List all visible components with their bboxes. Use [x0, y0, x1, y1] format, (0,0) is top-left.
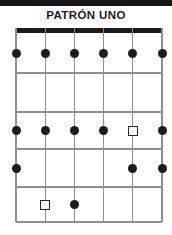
nut-bar: [16, 28, 163, 33]
note-dot: [12, 164, 21, 173]
note-dot: [158, 49, 167, 58]
fretboard-diagram: [0, 0, 172, 235]
page: PATRÓN UNO: [0, 0, 172, 235]
note-dot: [158, 164, 167, 173]
root-square: [128, 126, 138, 136]
fret-line: [16, 148, 162, 149]
fret-line: [16, 111, 162, 112]
fret-line: [16, 221, 162, 222]
note-dot: [70, 200, 79, 209]
note-dot: [158, 126, 167, 135]
note-dot: [12, 126, 21, 135]
note-dot: [99, 49, 108, 58]
note-dot: [99, 126, 108, 135]
note-dot: [70, 49, 79, 58]
note-dot: [70, 126, 79, 135]
root-square: [40, 200, 50, 210]
fret-line: [16, 72, 162, 73]
note-dot: [12, 49, 21, 58]
note-dot: [41, 126, 50, 135]
note-dot: [41, 49, 50, 58]
note-dot: [128, 49, 137, 58]
note-dot: [128, 164, 137, 173]
fret-line: [16, 186, 162, 187]
